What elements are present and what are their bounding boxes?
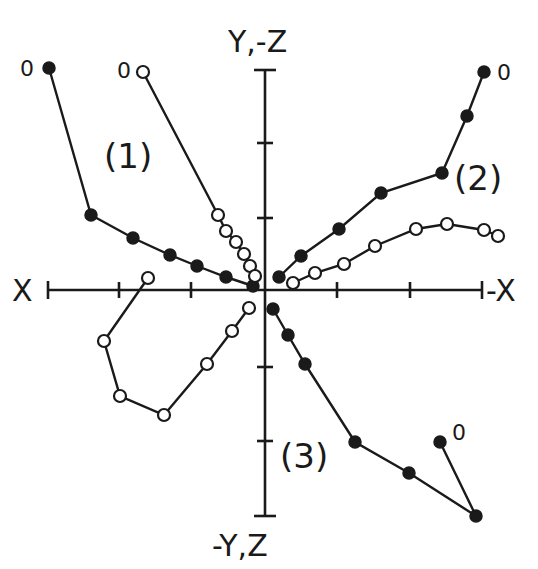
- open-data-point: [137, 66, 149, 78]
- series-path-3: [293, 224, 498, 283]
- filled-data-point: [267, 303, 279, 315]
- open-data-point: [220, 225, 232, 237]
- open-data-point: [243, 302, 255, 314]
- origin-label: 0: [452, 420, 466, 445]
- series-label: (2): [454, 158, 502, 198]
- filled-data-point: [470, 510, 482, 522]
- open-data-point: [201, 358, 213, 370]
- filled-data-point: [273, 271, 285, 283]
- filled-data-point: [375, 187, 387, 199]
- open-data-point: [142, 272, 154, 284]
- zijderveld-diagram: X -X Y,-Z -Y,Z (1)(2)(3) 0000: [0, 0, 538, 569]
- open-data-point: [249, 270, 261, 282]
- filled-data-point: [349, 436, 361, 448]
- open-data-point: [369, 240, 381, 252]
- open-data-point: [478, 224, 490, 236]
- filled-data-point: [434, 436, 446, 448]
- filled-data-point: [220, 271, 232, 283]
- filled-data-point: [299, 358, 311, 370]
- series-label: (1): [104, 136, 152, 176]
- open-data-point: [226, 325, 238, 337]
- filled-data-point: [164, 249, 176, 261]
- filled-data-point: [436, 167, 448, 179]
- filled-data-point: [43, 62, 55, 74]
- open-data-point: [238, 248, 250, 260]
- filled-data-point: [461, 110, 473, 122]
- series-points: [43, 62, 504, 522]
- open-data-point: [338, 258, 350, 270]
- series-label: (3): [280, 436, 328, 476]
- filled-data-point: [85, 209, 97, 221]
- open-data-point: [441, 218, 453, 230]
- filled-data-point: [295, 250, 307, 262]
- open-data-point: [309, 267, 321, 279]
- open-data-point: [158, 409, 170, 421]
- series-path-4: [273, 309, 476, 516]
- axis-label-x: X: [12, 273, 33, 308]
- origin-label: 0: [497, 60, 511, 85]
- filled-data-point: [403, 467, 415, 479]
- open-data-point: [287, 277, 299, 289]
- open-data-point: [212, 209, 224, 221]
- series-path-0: [49, 68, 253, 286]
- filled-data-point: [127, 232, 139, 244]
- origin-label: 0: [20, 56, 34, 81]
- axis-label-y-neg-z: Y,-Z: [227, 24, 287, 59]
- series-labels: (1)(2)(3): [104, 136, 502, 476]
- open-data-point: [114, 390, 126, 402]
- filled-data-point: [191, 260, 203, 272]
- filled-data-point: [333, 223, 345, 235]
- origin-label: 0: [117, 58, 131, 83]
- open-data-point: [98, 335, 110, 347]
- filled-data-point: [478, 66, 490, 78]
- open-data-point: [230, 236, 242, 248]
- filled-data-point: [282, 329, 294, 341]
- open-data-point: [492, 230, 504, 242]
- axis-label-neg-x: -X: [486, 273, 516, 308]
- open-data-point: [410, 223, 422, 235]
- axis-label-neg-y-z: -Y,Z: [212, 528, 268, 563]
